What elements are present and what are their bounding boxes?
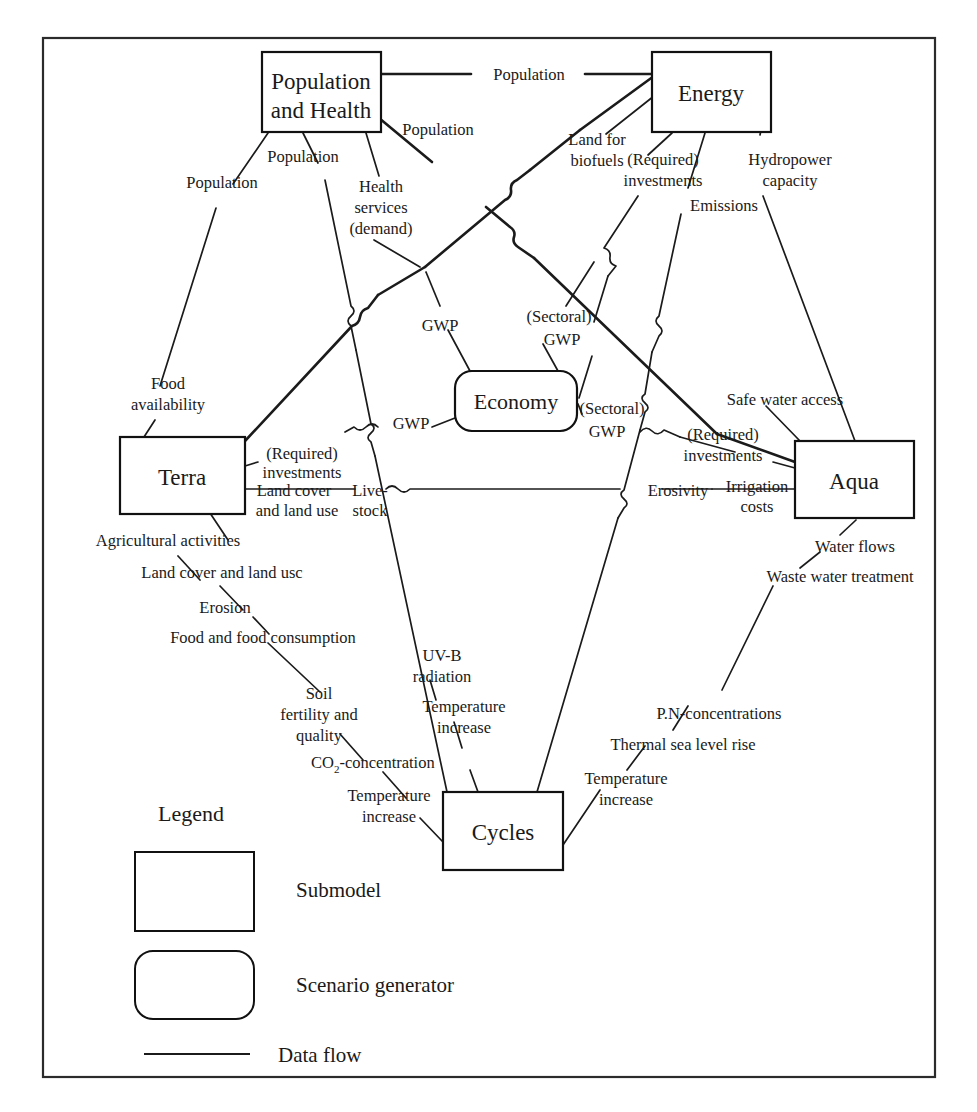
- flow-emissions-hop-1: [652, 214, 681, 352]
- edge-label-population-right: Population: [402, 120, 474, 139]
- edge-label-food-availability-l2: availability: [131, 395, 206, 414]
- edge-label-energy-investments-l2: investments: [624, 171, 703, 190]
- flow-emissions-hop-2: [640, 352, 652, 430]
- flow-land-for-biofuels: [606, 96, 654, 134]
- edge-label-aqua-investments-l1: (Required): [687, 425, 758, 444]
- flow-emissions-to-cycles: [537, 518, 618, 792]
- edge-label-uvb-radiation-l2: radiation: [413, 667, 472, 686]
- node-label-energy: Energy: [678, 81, 745, 106]
- edge-label-energy-investments-l1: (Required): [627, 150, 698, 169]
- flow-emissions-hop-3: [618, 430, 640, 518]
- submodel-dataflow-diagram: Population and Health Energy Terra Aqua …: [0, 0, 977, 1112]
- flow-sectoral-gwp-upper-b: [566, 262, 594, 306]
- legend-label-data-flow: Data flow: [278, 1043, 362, 1067]
- flow-aqua-chain-3: [722, 586, 773, 690]
- flow-gwp-left-stub: [432, 418, 455, 427]
- edge-label-population-left: Population: [186, 173, 258, 192]
- flow-population-to-terra-c: [144, 420, 155, 437]
- node-label-terra: Terra: [158, 465, 206, 490]
- edge-label-land-cover-l2: and land use: [256, 501, 338, 520]
- legend-symbol-scenario-generator: [135, 951, 254, 1019]
- flow-safe-water-access: [766, 406, 800, 441]
- edge-label-land-cover-chain: Land cover and land usc: [141, 563, 302, 582]
- edge-label-agricultural-activities: Agricultural activities: [96, 531, 240, 550]
- edge-label-temperature-increase-right-l1: Temperature: [584, 769, 667, 788]
- edge-label-irrigation-costs-l2: costs: [741, 497, 774, 516]
- edge-label-uvb-radiation-l1: UV-B: [423, 646, 462, 665]
- co2-prefix: CO: [311, 753, 334, 772]
- edge-label-sectoral-gwp-upper-l2: GWP: [544, 330, 581, 349]
- edge-label-land-cover-l1: Land cover: [257, 481, 332, 500]
- node-label-population: Population: [271, 69, 371, 94]
- flow-sectoral-gwp-right-hop: [640, 428, 680, 437]
- node-label-cycles: Cycles: [472, 820, 535, 845]
- node-label-aqua: Aqua: [829, 469, 879, 494]
- edge-label-sectoral-gwp-upper-l1: (Sectoral): [526, 307, 591, 326]
- edge-label-pn-concentrations: P.N-concentrations: [656, 704, 781, 723]
- edge-label-safe-water-access: Safe water access: [727, 390, 843, 409]
- legend-title: Legend: [158, 801, 224, 826]
- edge-label-population-center: Population: [267, 147, 339, 166]
- edge-label-thermal-sea-level-rise: Thermal sea level rise: [610, 735, 755, 754]
- flow-population-diagonal-hop-1: [486, 207, 534, 258]
- edge-label-emissions: Emissions: [690, 196, 758, 215]
- flow-population-center-hop-2: [356, 350, 375, 456]
- flow-aqua-chain-1: [840, 520, 856, 535]
- node-label-and-health: and Health: [271, 98, 372, 123]
- flow-terra-investments-stub: [245, 462, 258, 466]
- flow-health-services-b: [374, 240, 420, 267]
- flow-terra-diagonal-hop: [245, 295, 378, 441]
- edge-label-terra-investments-l2: investments: [263, 463, 342, 482]
- edge-label-temperature-increase-left-l1: Temperature: [347, 786, 430, 805]
- flow-gwp-upper: [448, 330, 470, 371]
- flow-gwp-upper-b: [426, 272, 440, 306]
- flow-aqua-chain-to-cycles: [563, 790, 600, 845]
- edge-label-irrigation-costs-l1: Irrigation: [726, 477, 788, 496]
- flow-energy-investments-c: [579, 356, 592, 398]
- edge-label-soil-fertility-l1: Soil: [306, 684, 333, 703]
- edge-label-co2-concentration: CO2-concentration: [311, 753, 435, 775]
- flow-terra-diagonal-hop-2: [425, 170, 530, 267]
- edge-label-livestock-l2: stock: [353, 501, 389, 520]
- edge-label-land-for-biofuels-l2: biofuels: [570, 151, 623, 170]
- edge-label-population-top: Population: [493, 65, 565, 84]
- edge-label-sectoral-gwp-right-l2: GWP: [589, 422, 626, 441]
- edge-label-gwp-left: GWP: [393, 414, 430, 433]
- node-label-economy: Economy: [474, 389, 558, 414]
- flow-land-cover-horizontal-hop: [386, 486, 620, 492]
- edge-label-health-services-l1: Health: [359, 177, 404, 196]
- edge-label-temperature-increase-mid-l1: Temperature: [422, 697, 505, 716]
- flow-population-to-terra-b: [160, 208, 216, 386]
- edge-label-food-availability-l1: Food: [151, 374, 186, 393]
- edge-label-soil-fertility-l3: quality: [296, 726, 343, 745]
- diagram-canvas: Population and Health Energy Terra Aqua …: [0, 0, 977, 1112]
- flow-energy-investments-b: [594, 276, 608, 322]
- flow-energy-investments-hop: [604, 196, 638, 276]
- flow-uvb-chain-3: [470, 770, 478, 792]
- edge-label-waste-water-treatment: Waste water treatment: [766, 567, 914, 586]
- edge-label-terra-investments-l1: (Required): [266, 444, 337, 463]
- flow-terra-diagonal-c: [580, 76, 654, 130]
- edge-label-temperature-increase-right-l2: increase: [599, 790, 653, 809]
- edge-label-gwp-upper: GWP: [422, 316, 459, 335]
- edge-label-sectoral-gwp-right-l1: (Sectoral): [579, 399, 644, 418]
- edge-label-water-flows: Water flows: [815, 537, 895, 556]
- edge-label-erosion: Erosion: [199, 598, 250, 617]
- edge-label-health-services-l2: services: [354, 198, 407, 217]
- edge-label-hydropower-l2: capacity: [763, 171, 819, 190]
- edge-label-temperature-increase-mid-l2: increase: [437, 718, 491, 737]
- edge-label-soil-fertility-l2: fertility and: [280, 705, 358, 724]
- edge-label-land-for-biofuels-l1: Land for: [568, 130, 626, 149]
- edge-label-livestock-l1: Live-: [352, 481, 388, 500]
- edge-label-aqua-investments-l2: investments: [684, 446, 763, 465]
- edge-label-temperature-increase-left-l2: increase: [362, 807, 416, 826]
- edge-label-erosivity: Erosivity: [648, 481, 709, 500]
- legend: Legend Submodel Scenario generator Data …: [135, 801, 454, 1067]
- flow-terra-chain-to-cycles: [420, 818, 443, 842]
- edge-label-health-services-l3: (demand): [349, 219, 412, 238]
- legend-symbol-submodel: [135, 852, 254, 931]
- edge-label-food-and-food-consumption: Food and food consumption: [170, 628, 356, 647]
- flow-terra-diagonal-a: [378, 267, 425, 295]
- flow-population-center-hop: [325, 180, 356, 350]
- legend-label-scenario-generator: Scenario generator: [296, 973, 454, 997]
